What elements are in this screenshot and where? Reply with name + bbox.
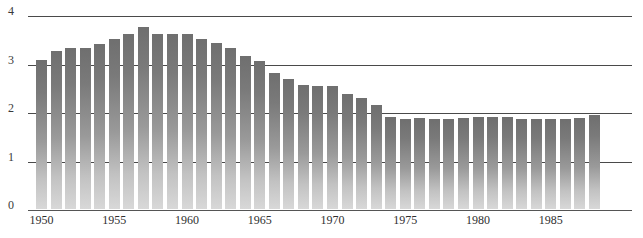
bar-1960: [182, 34, 193, 209]
bar-1965: [254, 61, 265, 209]
x-tick-label-1955: 1955: [102, 214, 126, 226]
bar-1964: [240, 56, 251, 209]
bar-1968: [298, 85, 309, 209]
y-tick-label-0: 0: [8, 199, 26, 211]
bar-1957: [138, 27, 149, 209]
bar-1975: [400, 119, 411, 209]
bar-1979: [458, 118, 469, 209]
bar-1963: [225, 48, 236, 209]
x-tick-label-1985: 1985: [539, 214, 563, 226]
y-tick-label-3: 3: [8, 54, 26, 66]
bar-1951: [51, 51, 62, 209]
bar-1956: [123, 34, 134, 209]
bar-1969: [312, 86, 323, 209]
bar-1988: [589, 115, 600, 209]
bar-1977: [429, 119, 440, 209]
y-tick-label-4: 4: [8, 5, 26, 17]
bar-1983: [516, 119, 527, 209]
bar-1970: [327, 86, 338, 209]
bar-1973: [371, 105, 382, 209]
bar-1986: [560, 119, 571, 209]
x-tick-label-1975: 1975: [393, 214, 417, 226]
x-tick-label-1970: 1970: [321, 214, 345, 226]
bar-1955: [109, 39, 120, 209]
x-tick-label-1960: 1960: [175, 214, 199, 226]
x-tick-label-1950: 1950: [30, 214, 54, 226]
bar-1982: [502, 117, 513, 209]
x-tick-label-1980: 1980: [466, 214, 490, 226]
bar-1967: [283, 79, 294, 209]
bar-1987: [574, 118, 585, 209]
bar-1974: [385, 117, 396, 209]
bars-layer: [36, 0, 626, 210]
bar-1976: [414, 118, 425, 209]
x-tick-label-1965: 1965: [248, 214, 272, 226]
bar-1959: [167, 34, 178, 209]
bar-chart: 01234 19501955196019651970197519801985: [0, 0, 643, 238]
bar-1984: [531, 119, 542, 209]
bar-1952: [65, 48, 76, 209]
y-tick-label-1: 1: [8, 151, 26, 163]
bar-1966: [269, 73, 280, 209]
bar-1981: [487, 117, 498, 209]
bar-1962: [211, 43, 222, 209]
bar-1980: [473, 117, 484, 209]
plot-area: 01234 19501955196019651970197519801985: [0, 0, 643, 238]
bar-1958: [152, 34, 163, 209]
bar-1978: [443, 119, 454, 209]
bar-1954: [94, 44, 105, 209]
bar-1972: [356, 98, 367, 209]
gridline-0: [28, 210, 632, 211]
bar-1953: [80, 48, 91, 209]
bar-1985: [545, 119, 556, 209]
bar-1971: [342, 94, 353, 209]
y-tick-label-2: 2: [8, 102, 26, 114]
bar-1950: [36, 60, 47, 209]
bar-1961: [196, 39, 207, 209]
